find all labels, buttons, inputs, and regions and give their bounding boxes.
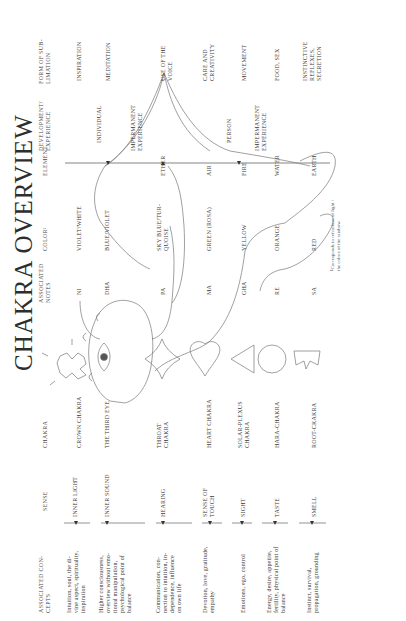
arrow-icon	[161, 521, 165, 525]
sense-throat: HEARING	[160, 489, 167, 517]
concepts-throat: Communication, con- nection to intuition…	[155, 528, 183, 613]
color-third-eye: BLUE/VIOLET	[104, 210, 111, 251]
sense-hara: TASTE	[274, 498, 281, 517]
sense-crown: INNER LIGHT	[72, 477, 79, 517]
arrow-icon	[74, 521, 78, 525]
chakra-hara: HARA-CHAKRA	[274, 401, 281, 448]
color-solar-plexus: YELLOW	[241, 224, 248, 251]
heart-icon	[190, 342, 220, 376]
concepts-hara: Energy, desire, appetite, fertility, phy…	[266, 528, 287, 613]
element-throat: ETHER	[160, 156, 167, 176]
arrow-icon	[310, 521, 314, 525]
element-solar-plexus: FIRE	[241, 162, 248, 176]
color-throat: SKY BLUE/TUR- QUOISE	[156, 204, 170, 251]
concepts-root: Instinct, survival, propagation, groundi…	[306, 528, 320, 613]
note-solar-plexus: GHA	[241, 281, 248, 295]
sublimation-solar-plexus: MOVEMENT	[241, 45, 248, 81]
footnote: ¹Corresponds to refraction of light / th…	[330, 200, 342, 271]
arrow-icon	[273, 521, 277, 525]
chakra-overview-page: CHAKRA OVERVIEW ASSOCIATED CON- CEPTS SE…	[0, 0, 406, 621]
sublimation-hara: FOOD, SEX	[274, 49, 281, 81]
sublimation-throat: USE OF THE VOICE	[160, 45, 174, 81]
chakra-solar-plexus: SOLAR-PLEXUS CHAKRA	[237, 401, 251, 448]
element-heart: AIR	[206, 165, 213, 176]
crown-icon	[42, 339, 86, 385]
concepts-heart: Devotion, love, gratitude, empathy	[202, 528, 216, 613]
eye-icon	[98, 343, 110, 371]
sense-heart: SENSE OF TOUCH	[202, 488, 216, 517]
color-crown: VIOLET/WHITE	[76, 206, 83, 251]
circle-icon	[258, 345, 286, 373]
sense-third-eye: INNER SOUND	[104, 474, 111, 517]
development-throat: IMPERMANENT EXPERIENCE	[130, 105, 144, 151]
note-throat: PA	[160, 287, 167, 295]
arrow-icon	[105, 521, 109, 525]
development-third-eye: INDIVIDUAL	[96, 105, 103, 143]
sense-solar-plexus: SIGHT	[240, 498, 247, 517]
chakra-third-eye: THE THIRD EYE	[104, 401, 111, 448]
concepts-solar-plexus: Emotions, ego, control	[240, 528, 247, 613]
triangle-icon	[231, 345, 254, 373]
development-solar-plexus: IMPERMANENT EXPERIENCE	[254, 105, 268, 151]
chakra-root: ROOT-CKAKRA	[311, 403, 318, 448]
sublimation-heart: CARE AND CREATIVITY	[202, 44, 216, 81]
note-heart: MA	[206, 285, 213, 295]
chakra-crown: CROWN CHAKRA	[76, 396, 83, 448]
sublimation-crown: INSPIRATION	[76, 42, 83, 81]
sense-root: SMELL	[311, 496, 318, 517]
element-hara: WATER	[274, 155, 281, 176]
color-heart: GREEN (ROSA)	[206, 207, 213, 251]
element-root: EARTH	[311, 155, 318, 176]
arrow-icon	[208, 521, 212, 525]
four-point-star-icon	[145, 339, 180, 379]
development-heart: PERSON	[226, 119, 233, 143]
note-root: SA	[311, 287, 318, 295]
chakra-heart: HEART CHAKRA	[206, 399, 213, 448]
note-hara: RE	[274, 287, 281, 295]
note-crown: NI	[76, 288, 83, 295]
note-third-eye: DHA	[104, 281, 111, 295]
arrow-icon	[240, 521, 244, 525]
color-hara: ORANGE	[274, 225, 281, 251]
concepts-third-eye: Higher consciousness, overview without e…	[98, 533, 133, 613]
concepts-crown: Intuition, soul, the di- vine aspect, sp…	[66, 533, 87, 613]
color-root: RED	[311, 238, 318, 251]
arrow-icon	[106, 161, 110, 165]
root-crown-icon	[294, 351, 320, 369]
sublimation-root: INSTINCTIVE REFLEXES, SECRETION	[302, 41, 323, 81]
chakra-throat: THROAT CHAKRA	[156, 421, 170, 448]
sublimation-third-eye: MEDITATION	[105, 42, 112, 81]
